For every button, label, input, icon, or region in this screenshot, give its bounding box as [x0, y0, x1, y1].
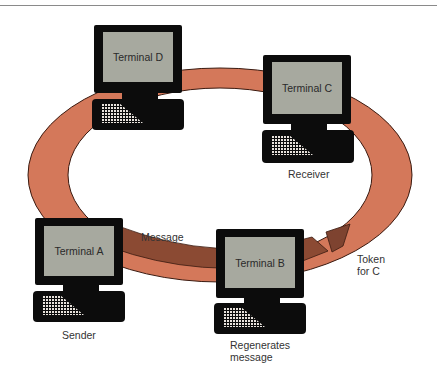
receiver-label: Receiver [288, 168, 329, 180]
keypad-icon [223, 307, 265, 327]
screen: Terminal B [225, 237, 295, 288]
keypad-icon [271, 135, 313, 155]
regenerates-label: Regenerates [230, 339, 290, 351]
regenerates-label-line2: message [230, 351, 273, 363]
keypad-icon [101, 103, 143, 123]
screen: Terminal D [103, 32, 173, 82]
screen: Terminal C [272, 62, 342, 114]
token-label: Token [357, 253, 385, 265]
token-label-line2: for C [357, 265, 380, 277]
keypad-icon [42, 295, 84, 315]
sender-label: Sender [62, 329, 96, 341]
message-label: Message [141, 231, 184, 243]
screen: Terminal A [44, 226, 114, 276]
